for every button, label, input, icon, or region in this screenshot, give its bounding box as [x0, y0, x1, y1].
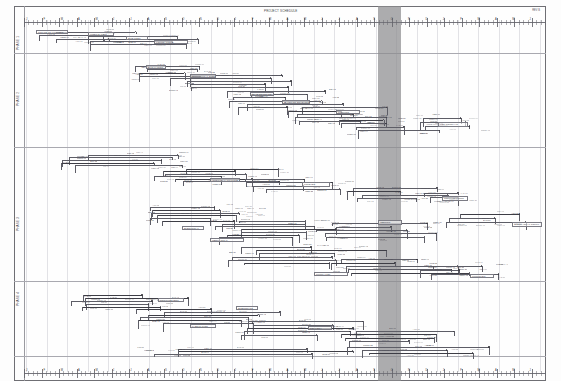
timescale-minor-tick	[536, 371, 537, 376]
timescale-minor-tick	[471, 371, 472, 376]
activity-label: FAB 67	[84, 296, 91, 299]
activity-label: DUCT 33	[428, 232, 437, 235]
timescale-label: F	[460, 18, 461, 21]
timescale-minor-tick	[190, 20, 191, 25]
activity-label: STL 32	[90, 161, 97, 164]
activity-callout[interactable]: COMMISSIONING	[442, 196, 468, 201]
network-node	[416, 259, 417, 260]
timescale-minor-tick	[326, 20, 327, 25]
activity-callout[interactable]: STRUCTURAL STEEL	[190, 74, 216, 78]
network-node	[287, 86, 288, 87]
timescale-minor-tick	[28, 371, 29, 376]
activity-label: SUB 91	[82, 302, 90, 305]
timescale-label: J	[130, 18, 131, 21]
activity-callout[interactable]: ROOFING	[336, 110, 360, 114]
activity-label: PIPE 82	[420, 222, 428, 225]
activity-callout[interactable]: FABRICATION	[190, 324, 216, 328]
activity-label: PIPE 40	[394, 234, 402, 237]
activity-label: DEL 61	[297, 256, 304, 259]
timescale-minor-tick	[431, 371, 432, 376]
timescale-major-tick	[444, 18, 445, 27]
timescale-minor-tick	[138, 20, 139, 25]
timescale-minor-tick	[366, 371, 367, 376]
timescale-minor-tick	[138, 371, 139, 376]
activity-callout[interactable]: PUNCH LIST	[314, 272, 348, 276]
logic-link	[241, 247, 242, 254]
timescale-major-tick	[532, 369, 533, 378]
activity-callout[interactable]: EXCAVATION	[146, 65, 166, 69]
activity-callout[interactable]: MEP ROUGH-IN	[438, 122, 468, 127]
timescale-label: M	[512, 369, 514, 372]
logic-link	[436, 233, 437, 241]
activity-label: CONC 29	[345, 181, 355, 184]
activity-label: TEST 79	[259, 96, 268, 99]
activity-callout[interactable]: TESTING	[378, 220, 402, 225]
activity-callout[interactable]: FOUNDATIONS	[154, 40, 188, 44]
activity-bar	[369, 353, 473, 354]
activity-callout[interactable]: SLAB ON GRADE	[250, 92, 274, 96]
network-node	[234, 170, 235, 171]
network-node	[385, 123, 386, 124]
activity-bar	[356, 331, 454, 332]
activity-callout[interactable]: TURNOVER	[470, 274, 494, 278]
timescale-minor-tick	[545, 20, 546, 25]
logic-link	[135, 66, 136, 72]
activity-label: FAB 97	[395, 192, 402, 195]
activity-label: DEL 93	[329, 89, 336, 92]
activity-label: APP 58	[424, 345, 431, 348]
activity-callout[interactable]: MOBILIZATION	[88, 32, 114, 36]
timescale-minor-tick	[173, 20, 174, 25]
logic-link	[82, 307, 83, 311]
activity-label: ROOF 35	[84, 42, 94, 45]
activity-callout[interactable]: ELECTRICAL	[182, 226, 204, 230]
timescale-minor-tick	[344, 371, 345, 376]
logic-link	[341, 123, 342, 128]
activity-callout[interactable]: PROCUREMENT	[158, 298, 184, 302]
activity-callout[interactable]: FINISHES	[302, 182, 330, 187]
logic-link	[266, 189, 267, 193]
timescale-minor-tick	[90, 371, 91, 376]
activity-label: APP 13	[378, 338, 385, 341]
activity-callout[interactable]: NOTICE TO PROCEED	[36, 30, 68, 34]
timescale-minor-tick	[247, 371, 248, 376]
activity-callout[interactable]: SUBSTANTIAL COMPL	[512, 222, 542, 227]
activity-label: CONC 35	[363, 345, 373, 348]
activity-callout[interactable]: DELIVERY	[308, 326, 332, 330]
activity-label: TEST 20	[459, 269, 468, 272]
activity-label: DEL 27	[187, 347, 194, 350]
logic-link	[154, 176, 155, 181]
activity-label: REV 88	[132, 73, 140, 76]
activity-label: INST 53	[318, 91, 326, 94]
activity-callout[interactable]: EXTERIOR ENVELOPE	[282, 100, 310, 104]
logic-link	[241, 335, 242, 341]
activity-label: FAB 82	[63, 162, 70, 165]
network-node	[210, 308, 211, 309]
activity-callout[interactable]: SUBMITTALS	[236, 306, 258, 310]
logic-link	[430, 197, 431, 202]
timescale-label: S	[373, 369, 375, 372]
activity-bar	[75, 165, 182, 166]
timescale-minor-tick	[142, 20, 143, 25]
activity-label: APP 83	[306, 108, 313, 111]
activity-callout[interactable]: MECHANICAL	[210, 238, 244, 242]
timescale-minor-tick	[300, 371, 301, 376]
timescale-minor-tick	[160, 20, 161, 25]
activity-callout[interactable]: SITE PREP	[126, 36, 148, 40]
activity-label: ROOF 92	[359, 246, 369, 249]
activity-label: STL 60	[179, 166, 186, 169]
activity-label: INST 22	[337, 254, 345, 257]
network-node	[290, 80, 291, 81]
activity-label: WIRE 63	[91, 299, 100, 302]
frame-left-border	[14, 6, 15, 381]
activity-label: DUCT 18	[383, 269, 392, 272]
activity-bar	[297, 114, 353, 115]
network-node	[439, 130, 440, 131]
timescale-label: J	[443, 369, 444, 372]
activity-label: CONC 38	[130, 160, 140, 163]
timescale-minor-tick	[63, 20, 64, 25]
activity-label: PREP 85	[177, 317, 186, 320]
activity-label: REV 74	[336, 229, 344, 232]
activity-bar	[423, 118, 461, 119]
activity-callout[interactable]: INTERIOR PARTITIONS	[210, 178, 240, 182]
timescale-minor-tick	[177, 371, 178, 376]
